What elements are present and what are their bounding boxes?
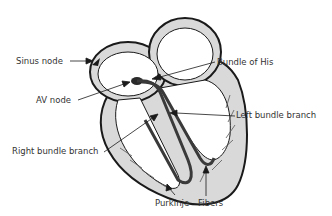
- heart-conduction-diagram: Sinus node AV node Bundle of His Left bu…: [0, 0, 332, 216]
- label-bundle-of-his: Bundle of His: [217, 57, 273, 67]
- label-right-bundle-branch: Right bundle branch: [12, 146, 99, 156]
- label-fibers: Fibers: [198, 198, 223, 208]
- label-sinus-node: Sinus node: [16, 56, 63, 66]
- label-av-node: AV node: [36, 95, 71, 105]
- heart-illustration: [0, 0, 332, 216]
- label-left-bundle-branch: Left bundle branch: [236, 110, 316, 120]
- label-purkinje: Purkinje: [155, 198, 189, 208]
